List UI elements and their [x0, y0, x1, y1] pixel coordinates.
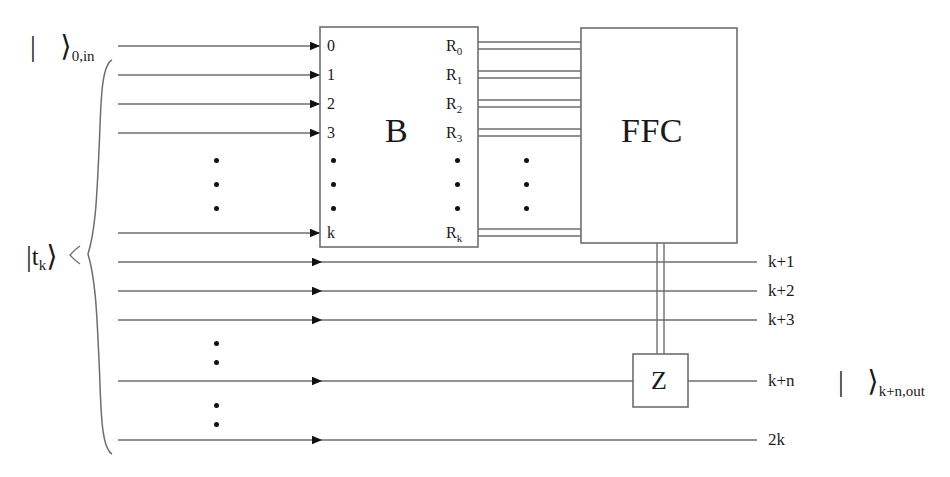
ellipsis-dot-b-in-1 [331, 158, 336, 163]
wire-label-k-plus-3: k+3 [768, 311, 795, 328]
b-output-label-r0: R0 [446, 38, 462, 54]
ket-angle: ⟩ [60, 30, 71, 62]
b-output-base-rk: R [446, 224, 457, 241]
bus-r2 [478, 100, 581, 107]
input-brace [88, 60, 112, 454]
wire-label-k-plus-1: k+1 [768, 253, 795, 270]
target-ket-brace [70, 246, 80, 264]
b-output-base-r1: R [446, 66, 457, 83]
ellipsis-dot-lower-b-2 [214, 422, 219, 427]
target-ket-label: |tk⟩ [26, 241, 58, 270]
b-output-sub-r2: 2 [457, 103, 463, 115]
b-output-base-r3: R [446, 124, 457, 141]
b-output-base-r2: R [446, 95, 457, 112]
b-output-base-r0: R [446, 37, 457, 54]
input-ket-label: | ⟩0,in [30, 31, 95, 60]
b-output-sub-r0: 0 [457, 45, 463, 57]
ellipsis-dot-left-1 [214, 158, 219, 163]
ellipsis-dot-bus-3 [524, 206, 529, 211]
b-output-sub-rk: k [457, 232, 463, 244]
bus-r1 [478, 71, 581, 78]
b-input-label-2: 2 [327, 96, 335, 112]
ellipsis-dot-lower-a-1 [214, 341, 219, 346]
wire-label-k-plus-2: k+2 [768, 282, 795, 299]
output-ket-subscript: k+n,out [879, 383, 925, 399]
z-box-title: Z [651, 366, 667, 396]
b-input-label-k: k [327, 225, 335, 241]
b-output-sub-r3: 3 [457, 132, 463, 144]
target-ket-bar: | [26, 240, 32, 272]
ffc-box-title: FFC [621, 112, 683, 150]
ellipsis-dot-b-out-2 [455, 182, 460, 187]
ellipsis-dot-b-out-3 [455, 206, 460, 211]
b-output-label-r1: R1 [446, 67, 462, 83]
ellipsis-dot-lower-a-2 [214, 360, 219, 365]
wire-label-2k: 2k [768, 431, 785, 448]
b-output-label-rk: Rk [446, 225, 462, 241]
bus-r3 [478, 129, 581, 136]
b-input-label-0: 0 [327, 38, 335, 54]
ket-bar: | [30, 30, 36, 62]
b-input-label-3: 3 [327, 125, 335, 141]
b-output-label-r3: R3 [446, 125, 462, 141]
wire-label-k-plus-n: k+n [768, 372, 795, 389]
ellipsis-dot-b-in-2 [331, 182, 336, 187]
ellipsis-dot-b-out-1 [455, 158, 460, 163]
b-output-sub-r1: 1 [457, 74, 463, 86]
bus-ffc-to-z [657, 243, 664, 354]
bus-r0 [478, 42, 581, 49]
ellipsis-dot-left-3 [214, 206, 219, 211]
b-box-title: B [385, 112, 408, 150]
target-ket-symbol: t [32, 243, 39, 270]
output-ket-angle: ⟩ [867, 365, 878, 397]
circuit-diagram-canvas: | ⟩0,in |tk⟩ B FFC Z 0 1 2 3 k R0 R1 R2 … [0, 0, 950, 477]
ellipsis-dot-b-in-3 [331, 206, 336, 211]
ellipsis-dot-bus-2 [524, 182, 529, 187]
output-ket-label: | ⟩k+n,out [838, 366, 925, 395]
ellipsis-dot-lower-b-1 [214, 403, 219, 408]
ellipsis-dot-bus-1 [524, 158, 529, 163]
circuit-wires-layer [0, 0, 950, 477]
bus-rk [478, 229, 581, 236]
output-ket-bar: | [838, 365, 844, 397]
ket-subscript: 0,in [72, 48, 95, 64]
target-ket-angle: ⟩ [46, 240, 57, 272]
ellipsis-dot-left-2 [214, 182, 219, 187]
b-input-label-1: 1 [327, 67, 335, 83]
b-output-label-r2: R2 [446, 96, 462, 112]
